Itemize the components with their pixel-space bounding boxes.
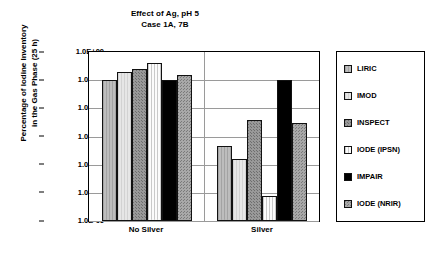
y-axis-label-line1: Percentage of Iodine Inventory — [18, 0, 29, 168]
legend-label: INSPECT — [357, 118, 390, 127]
bar-impair — [162, 80, 177, 221]
chart-page: Effect of Ag, pH 5 Case 1A, 7B Percentag… — [0, 0, 429, 254]
legend-swatch-icon — [344, 92, 352, 100]
y-axis-label: Percentage of Iodine Inventory in the Ga… — [18, 0, 40, 168]
y-axis-tick-mark — [39, 192, 44, 193]
legend-label: IMOD — [357, 91, 377, 100]
bar-imod — [232, 159, 247, 221]
bar-inspect — [132, 69, 147, 221]
gridline — [89, 221, 319, 222]
chart-title: Effect of Ag, pH 5 Case 1A, 7B — [0, 8, 330, 30]
bar-iode-ipsn — [147, 63, 162, 221]
legend-item-liric[interactable]: LIRIC — [344, 64, 377, 73]
bar-imod — [117, 72, 132, 221]
y-axis-tick-mark — [39, 220, 44, 221]
legend-item-inspect[interactable]: INSPECT — [344, 118, 390, 127]
legend-label: IODE (IPSN) — [357, 145, 400, 154]
x-axis-tick-label: No Silver — [88, 225, 204, 234]
bar-iode-nrir — [177, 75, 192, 221]
legend-swatch-icon — [344, 119, 352, 127]
chart-subtitle: Case 1A, 7B — [0, 19, 330, 30]
bar-iode-nrir — [292, 123, 307, 221]
y-axis-tick-mark — [39, 164, 44, 165]
legend-label: LIRIC — [357, 64, 377, 73]
bar-impair — [277, 80, 292, 221]
y-axis-label-line2: in the Gas Phase (25 h) — [29, 0, 40, 168]
bar-group-no-silver — [89, 52, 204, 221]
bar-iode-ipsn — [262, 196, 277, 221]
x-axis-tick-label: Silver — [204, 225, 320, 234]
plot-area — [88, 51, 320, 222]
bar-inspect — [247, 120, 262, 221]
chart-legend: LIRICIMODINSPECTIODE (IPSN)IMPAIRIODE (N… — [336, 51, 425, 222]
legend-swatch-icon — [344, 146, 352, 154]
bar-liric — [102, 80, 117, 221]
y-axis-tick-mark — [39, 136, 44, 137]
legend-swatch-icon — [344, 200, 352, 208]
legend-swatch-icon — [344, 173, 352, 181]
bar-group-silver — [204, 52, 319, 221]
legend-item-imod[interactable]: IMOD — [344, 91, 377, 100]
legend-label: IMPAIR — [357, 172, 383, 181]
y-axis-tick-mark — [39, 79, 44, 80]
legend-item-iode-ipsn[interactable]: IODE (IPSN) — [344, 145, 400, 154]
legend-item-impair[interactable]: IMPAIR — [344, 172, 383, 181]
y-axis-tick-mark — [39, 107, 44, 108]
y-axis-tick-mark — [39, 51, 44, 52]
legend-swatch-icon — [344, 65, 352, 73]
legend-item-iode-nrir[interactable]: IODE (NRIR) — [344, 199, 401, 208]
bar-liric — [217, 146, 232, 221]
chart-title-line1: Effect of Ag, pH 5 — [0, 8, 330, 19]
legend-label: IODE (NRIR) — [357, 199, 401, 208]
